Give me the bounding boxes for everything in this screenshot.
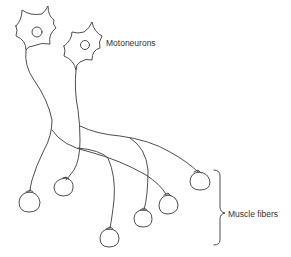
muscle-fiber-5 xyxy=(159,193,178,214)
muscle-fiber-2 xyxy=(54,177,73,196)
curly-brace xyxy=(214,170,225,245)
muscle-fiber-1 xyxy=(19,190,40,212)
motoneuron-2 xyxy=(64,22,198,210)
motor-unit-diagram: Motoneurons Muscle fibers xyxy=(0,0,291,257)
muscle-fiber-4 xyxy=(134,208,152,227)
motoneurons-label: Motoneurons xyxy=(106,38,156,48)
muscle-fibers-label: Muscle fibers xyxy=(228,209,278,219)
muscle-fiber-6 xyxy=(190,170,210,190)
muscle-fiber-3 xyxy=(100,227,119,247)
